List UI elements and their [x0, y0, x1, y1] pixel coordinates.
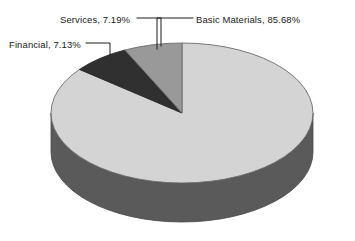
- slice-label-basic-materials: Basic Materials, 85.68%: [196, 14, 300, 25]
- pie-top-faces: [51, 43, 313, 183]
- slice-label-financial: Financial, 7.13%: [9, 39, 81, 50]
- pie-chart-figure: Basic Materials, 85.68% Services, 7.19% …: [0, 0, 355, 241]
- pie-chart-canvas: [0, 0, 355, 241]
- leader-line-financial: [86, 43, 110, 55]
- slice-label-services: Services, 7.19%: [60, 14, 130, 25]
